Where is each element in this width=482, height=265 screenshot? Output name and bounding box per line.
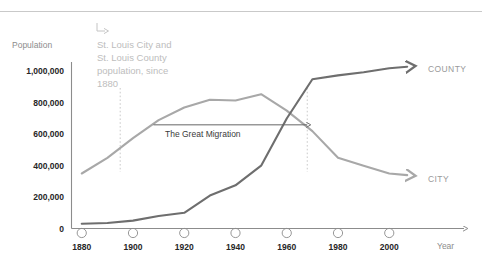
- y-tick-label: 0: [59, 224, 64, 234]
- x-tick-label: 1940: [226, 242, 245, 252]
- x-tick-label: 1900: [124, 242, 143, 252]
- x-axis-title: Year: [437, 241, 454, 251]
- x-axis-tick-markers: [77, 228, 394, 237]
- y-tick-label: 200,000: [33, 192, 64, 202]
- x-tick-circle-marker: [231, 228, 240, 237]
- x-tick-circle-marker: [77, 228, 86, 237]
- chart-canvas: St. Louis City and St. Louis County popu…: [0, 0, 482, 265]
- great-migration-label: The Great Migration: [165, 129, 241, 139]
- population-line-chart: St. Louis City and St. Louis County popu…: [0, 0, 482, 265]
- y-tick-label: 800,000: [33, 98, 64, 108]
- caption-line-3: population, since: [97, 65, 168, 76]
- x-axis-tick-labels: 1880190019201940196019802000: [72, 242, 399, 252]
- caption-line-2: St. Louis County: [97, 52, 167, 63]
- series-label-county: COUNTY: [428, 64, 466, 74]
- x-tick-circle-marker: [385, 228, 394, 237]
- y-tick-label: 400,000: [33, 161, 64, 171]
- y-tick-label: 600,000: [33, 129, 64, 139]
- series-line-county: [82, 67, 407, 224]
- y-tick-label: 1,000,000: [26, 66, 64, 76]
- caption-line-1: St. Louis City and: [97, 39, 171, 50]
- series-label-city: CITY: [428, 174, 449, 184]
- series-line-city: [82, 94, 407, 175]
- x-tick-circle-marker: [282, 228, 291, 237]
- x-tick-label: 1880: [72, 242, 91, 252]
- y-axis-title: Population: [12, 40, 52, 50]
- x-tick-label: 1980: [329, 242, 348, 252]
- y-axis-tick-labels: 0200,000400,000600,000800,0001,000,000: [26, 66, 64, 233]
- x-tick-label: 2000: [380, 242, 399, 252]
- x-tick-label: 1920: [175, 242, 194, 252]
- x-tick-label: 1960: [277, 242, 296, 252]
- x-tick-circle-marker: [333, 228, 342, 237]
- caption-arrow-icon: [97, 23, 105, 31]
- x-tick-circle-marker: [128, 228, 137, 237]
- x-tick-circle-marker: [180, 228, 189, 237]
- caption-line-4: 1880: [97, 78, 118, 89]
